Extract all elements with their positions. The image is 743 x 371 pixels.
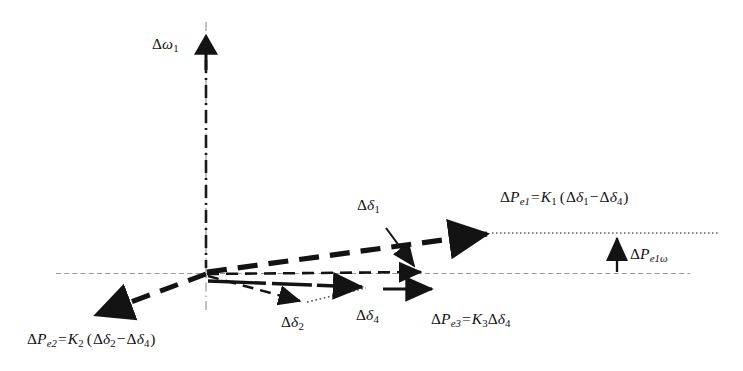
label-delta-delta-4: Δδ4 xyxy=(356,307,379,325)
label-delta-P-e2: ΔPe2=K2(Δδ2−Δδ4) xyxy=(27,331,157,349)
label-delta-P-e1: ΔPe1=K1(Δδ1−Δδ4) xyxy=(500,189,630,207)
label-delta-delta-1: Δδ1 xyxy=(357,197,380,215)
vector-delta-delta-4 xyxy=(208,281,362,287)
vector-delta-delta-2 xyxy=(208,276,300,301)
label-delta-P-e1-omega: ΔPe1ω xyxy=(630,246,668,264)
connector-dotted-line xyxy=(307,288,366,302)
label-delta-P-e3: ΔPe3=K3Δδ4 xyxy=(431,311,510,329)
label-axis-delta-omega-1: Δω1 xyxy=(152,36,179,54)
vector-delta-P-e2 xyxy=(96,274,206,315)
phasor-diagram: Δω1 ΔPe1=K1(Δδ1−Δδ4) ΔPe2=K2(Δδ2−Δδ4) ΔP… xyxy=(0,0,743,371)
vector-delta-P-e1 xyxy=(207,234,487,272)
label-delta-delta-2: Δδ2 xyxy=(281,314,304,332)
